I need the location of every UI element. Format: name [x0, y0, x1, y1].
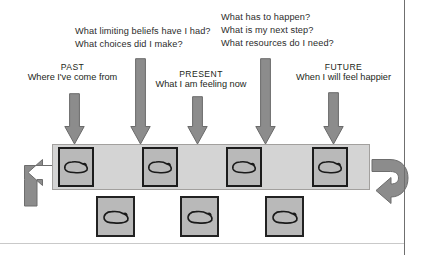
era-present-name: PRESENT [142, 69, 260, 79]
era-past-name: PAST [5, 62, 140, 72]
past-question-line-2: What choices did I make? [75, 39, 183, 51]
arrow-down-present [187, 96, 208, 145]
worksheet-page: What limiting beliefs have I had? What c… [0, 0, 427, 255]
figure-sketch-icon [102, 208, 130, 225]
past-question-line-1: What limiting beliefs have I had? [75, 26, 211, 38]
figure-sketch-icon [186, 208, 214, 225]
era-future-subtitle: When I will feel happier [281, 72, 406, 82]
figure-sketch-icon [231, 159, 257, 175]
arrow-down-future-questions [255, 58, 276, 145]
future-question-line-3: What resources do I need? [221, 38, 334, 50]
era-present-subtitle: What I am feeling now [142, 79, 260, 89]
card-below-1 [96, 196, 135, 237]
page-border-right [404, 0, 405, 255]
figure-sketch-icon [271, 208, 299, 225]
card-present [226, 147, 262, 187]
era-future: FUTURE When I will feel happier [281, 62, 406, 82]
arrow-down-future [323, 92, 344, 145]
card-below-2 [180, 196, 219, 237]
era-future-name: FUTURE [281, 62, 406, 72]
arrow-down-past [64, 93, 85, 145]
figure-sketch-icon [63, 159, 89, 175]
card-past [58, 147, 94, 187]
curved-arrow-right-icon [371, 156, 411, 210]
card-past-choices [142, 147, 178, 187]
era-past: PAST Where I've come from [5, 62, 140, 82]
card-below-3 [265, 196, 304, 237]
figure-sketch-icon [147, 159, 173, 175]
card-future [312, 147, 348, 187]
era-past-subtitle: Where I've come from [5, 72, 140, 82]
era-present: PRESENT What I am feeling now [142, 69, 260, 89]
arrow-down-past-questions [130, 58, 151, 145]
future-question-line-2: What is my next step? [221, 25, 313, 37]
page-border-bottom [0, 243, 404, 244]
future-question-line-1: What has to happen? [221, 12, 310, 24]
figure-sketch-icon [317, 159, 343, 175]
